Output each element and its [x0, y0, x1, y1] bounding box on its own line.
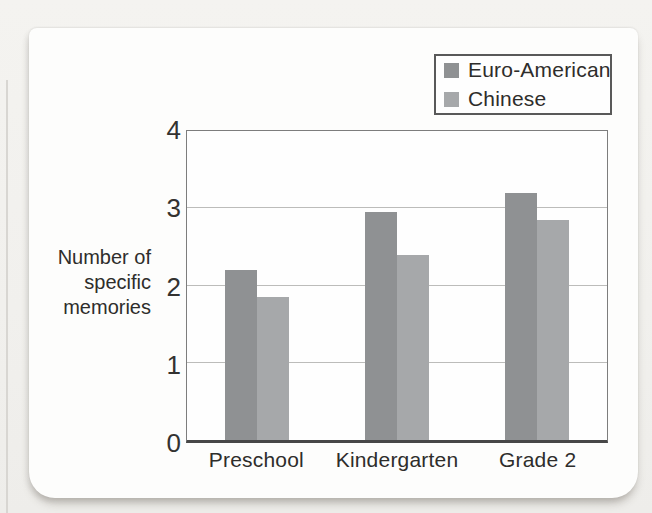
legend-label-chinese: Chinese	[468, 87, 546, 111]
scanned-page-background: Euro-American Chinese Number of specific…	[0, 0, 652, 513]
legend-item: Euro-American	[444, 57, 610, 83]
bar-chinese-grade-2	[537, 220, 569, 440]
y-tick-3: 3	[167, 193, 181, 224]
plot-area	[186, 130, 608, 443]
x-label-grade-2: Grade 2	[499, 448, 576, 472]
x-axis-labels: PreschoolKindergartenGrade 2	[186, 448, 608, 478]
legend: Euro-American Chinese	[434, 54, 612, 115]
bar-euro-american-preschool	[225, 270, 257, 440]
gridline-3	[187, 207, 607, 208]
legend-label-euro-american: Euro-American	[468, 58, 611, 82]
bar-euro-american-grade-2	[505, 193, 537, 440]
bar-chinese-kindergarten	[397, 255, 429, 440]
x-label-kindergarten: Kindergarten	[336, 448, 459, 472]
y-axis-ticks: 01234	[29, 130, 181, 443]
y-tick-4: 4	[167, 115, 181, 146]
legend-swatch-euro-american	[444, 63, 459, 78]
legend-item: Chinese	[444, 86, 610, 112]
y-tick-0: 0	[167, 428, 181, 459]
figure-card: Euro-American Chinese Number of specific…	[29, 28, 638, 498]
x-label-preschool: Preschool	[209, 448, 304, 472]
y-tick-1: 1	[167, 349, 181, 380]
y-tick-2: 2	[167, 271, 181, 302]
page-edge-line	[6, 80, 8, 513]
legend-swatch-chinese	[444, 92, 459, 107]
bar-euro-american-kindergarten	[365, 212, 397, 440]
bar-chinese-preschool	[257, 297, 289, 440]
